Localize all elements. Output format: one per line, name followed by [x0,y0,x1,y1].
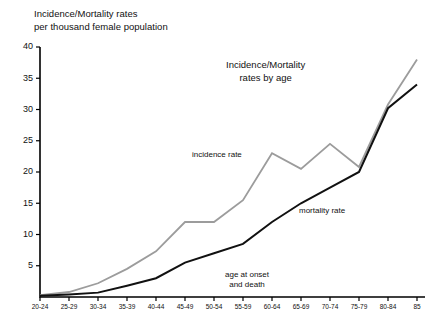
y-tick-label: 10 [23,229,33,239]
data-series [40,60,417,296]
x-tick-label: 70-74 [322,303,339,310]
y-tick-label: 30 [23,104,33,114]
x-axis-ticks: 20-2425-2930-3435-3940-4445-4950-5455-59… [32,297,421,310]
y-tick-label: 35 [23,73,33,83]
chart-container: Incidence/Mortality rates per thousand f… [0,0,435,320]
x-tick-label: 20-24 [32,303,49,310]
series-mortality-rate [40,85,417,296]
x-tick-label: 40-44 [148,303,165,310]
y-tick-label: 25 [23,135,33,145]
x-tick-label: 30-34 [90,303,107,310]
y-axis-ticks: 510152025303540 [23,41,40,270]
x-tick-label: 35-39 [119,303,136,310]
x-tick-label: 55-59 [235,303,252,310]
axis-lines [40,47,425,297]
x-tick-label: 80-84 [380,303,397,310]
x-tick-label: 85 [413,303,421,310]
x-tick-label: 60-64 [264,303,281,310]
x-tick-label: 50-54 [206,303,223,310]
x-tick-label: 65-69 [293,303,310,310]
y-tick-label: 20 [23,166,33,176]
y-tick-label: 5 [28,260,33,270]
series-incidence-rate [40,60,417,296]
x-tick-label: 25-29 [61,303,78,310]
y-tick-label: 40 [23,41,33,51]
plot-area: 510152025303540 20-2425-2930-3435-3940-4… [0,0,435,320]
x-tick-label: 45-49 [177,303,194,310]
y-tick-label: 15 [23,198,33,208]
x-tick-label: 75-79 [351,303,368,310]
